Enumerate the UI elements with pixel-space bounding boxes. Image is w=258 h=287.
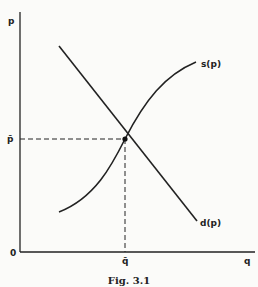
q-bar-label: q̄ [122, 256, 128, 266]
p-bar-label: p̄ [7, 134, 14, 144]
supply-curve [59, 62, 196, 212]
supply-label: s(p) [201, 59, 221, 69]
origin-label: 0 [10, 248, 16, 258]
y-axis-label: p [8, 16, 15, 26]
demand-label: d(p) [200, 218, 221, 228]
supply-demand-chart: p p̄ 0 q̄ q s(p) d(p) Fig. 3.1 [0, 0, 258, 287]
figure-caption: Fig. 3.1 [108, 275, 150, 286]
equilibrium-point [122, 136, 127, 141]
x-axis-label: q [244, 256, 250, 266]
